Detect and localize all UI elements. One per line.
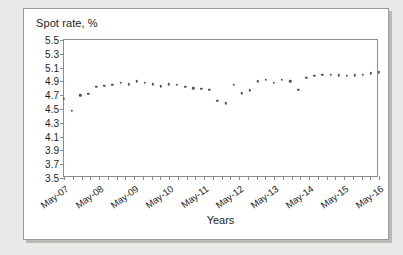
x-tick-mark [90, 176, 91, 180]
data-point [273, 82, 275, 84]
x-tick-mark [309, 176, 310, 180]
data-point [160, 85, 162, 87]
x-tick-mark [335, 176, 336, 180]
data-point [95, 86, 97, 88]
data-point [176, 84, 178, 86]
data-point [337, 74, 339, 76]
y-tick-mark [60, 109, 64, 110]
x-tick-mark [353, 176, 354, 180]
y-tick-mark [60, 40, 64, 41]
x-tick-label: May-15 [318, 183, 350, 211]
y-tick-mark [60, 164, 64, 165]
data-point [313, 75, 315, 77]
data-point [63, 97, 65, 99]
x-tick-mark [143, 176, 144, 180]
y-tick-label: 3.9 [45, 145, 59, 156]
data-point [321, 73, 323, 75]
data-point [345, 75, 347, 77]
data-point [370, 72, 372, 74]
data-point [111, 84, 113, 86]
x-tick-label: May-10 [143, 183, 175, 211]
x-tick-mark [222, 176, 223, 180]
x-tick-mark [230, 176, 231, 180]
x-tick-mark [239, 176, 240, 180]
data-point [127, 83, 129, 85]
x-tick-mark [379, 176, 380, 180]
y-tick-label: 4.9 [45, 76, 59, 87]
chart-card: Spot rate, % 5.55.35.14.94.74.54.34.13.9… [23, 8, 389, 240]
x-tick-label: May-08 [73, 183, 105, 211]
y-tick-label: 4.5 [45, 104, 59, 115]
x-tick-mark [160, 176, 161, 180]
data-point [152, 83, 154, 85]
x-tick-mark [257, 176, 258, 180]
plot-inner: 5.55.35.14.94.74.54.34.13.93.73.5May-07M… [64, 40, 377, 176]
data-point [249, 89, 251, 91]
x-tick-mark [204, 176, 205, 180]
y-tick-mark [60, 137, 64, 138]
data-point [265, 79, 267, 81]
data-point [71, 110, 73, 112]
data-point [87, 93, 89, 95]
y-tick-label: 4.1 [45, 131, 59, 142]
y-tick-label: 4.7 [45, 90, 59, 101]
x-tick-mark [64, 176, 65, 180]
x-tick-mark [248, 176, 249, 180]
data-point [144, 82, 146, 84]
data-point [297, 88, 299, 90]
x-tick-mark [362, 176, 363, 180]
x-tick-mark [318, 176, 319, 180]
x-tick-mark [187, 176, 188, 180]
plot-area: 5.55.35.14.94.74.54.34.13.93.73.5May-07M… [63, 39, 378, 177]
x-tick-mark [178, 176, 179, 180]
y-tick-mark [60, 68, 64, 69]
data-point [79, 94, 81, 96]
x-tick-label: May-11 [179, 183, 211, 210]
x-tick-mark [108, 176, 109, 180]
data-point [135, 80, 137, 82]
y-tick-label: 5.3 [45, 48, 59, 59]
data-point [192, 87, 194, 89]
y-tick-label: 4.3 [45, 117, 59, 128]
y-tick-mark [60, 95, 64, 96]
x-tick-mark [134, 176, 135, 180]
x-tick-mark [327, 176, 328, 180]
data-point [184, 86, 186, 88]
data-point [305, 77, 307, 79]
x-tick-mark [265, 176, 266, 180]
x-tick-label: May-13 [248, 183, 280, 211]
x-tick-label: May-16 [353, 183, 385, 211]
x-tick-mark [213, 176, 214, 180]
x-tick-mark [370, 176, 371, 180]
data-point [257, 80, 259, 82]
x-tick-mark [73, 176, 74, 180]
y-tick-mark [60, 81, 64, 82]
x-tick-label: May-09 [108, 183, 140, 211]
chart-page: Spot rate, % 5.55.35.14.94.74.54.34.13.9… [0, 0, 403, 255]
chart-title: Spot rate, % [36, 17, 98, 29]
x-tick-mark [283, 176, 284, 180]
x-tick-mark [99, 176, 100, 180]
y-tick-mark [60, 150, 64, 151]
x-tick-label: May-14 [283, 183, 315, 211]
y-tick-label: 5.5 [45, 35, 59, 46]
x-tick-mark [125, 176, 126, 180]
data-point [216, 100, 218, 102]
x-tick-mark [300, 176, 301, 180]
data-point [200, 88, 202, 90]
y-tick-mark [60, 123, 64, 124]
data-point [232, 84, 234, 86]
data-point [281, 79, 283, 81]
data-point [378, 71, 380, 73]
data-point [362, 73, 364, 75]
x-tick-mark [274, 176, 275, 180]
data-point [168, 83, 170, 85]
x-tick-mark [169, 176, 170, 180]
data-point [119, 82, 121, 84]
x-tick-label: May-07 [38, 183, 70, 211]
data-point [208, 88, 210, 90]
x-tick-label: May-12 [213, 183, 245, 211]
data-point [103, 84, 105, 86]
data-point [240, 92, 242, 94]
y-tick-label: 5.1 [45, 62, 59, 73]
